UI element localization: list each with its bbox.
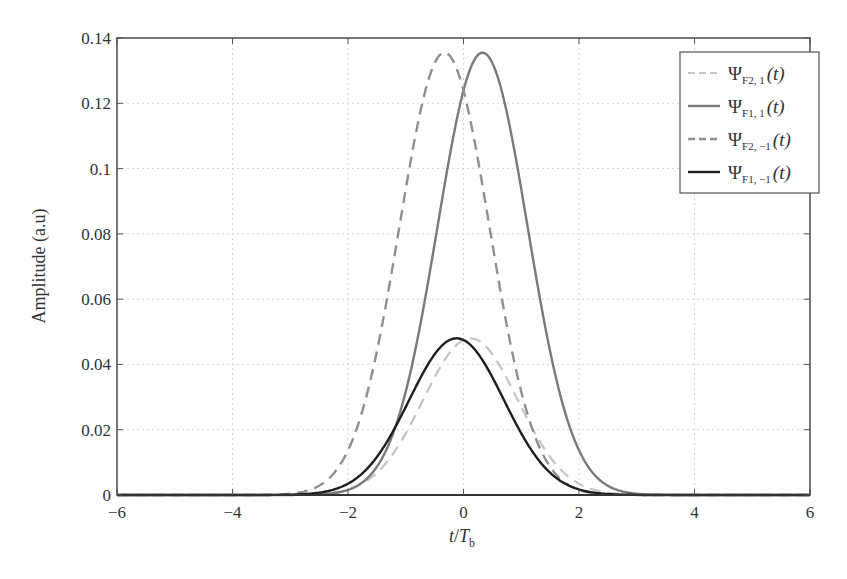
x-tick-label: 6 [806,503,815,522]
line-chart: 00.020.040.060.080.10.120.14 −6−4−20246 … [0,0,847,579]
series-line-4 [117,338,810,495]
y-tick-label: 0.14 [81,29,111,48]
x-tick-labels: −6−4−20246 [108,503,814,522]
x-tick-label: 4 [690,503,699,522]
y-tick-label: 0.02 [81,421,111,440]
y-tick-label: 0.08 [81,225,111,244]
y-axis-label: Amplitude (a.u) [29,209,50,324]
y-tick-label: 0.12 [81,94,111,113]
x-tick-label: 0 [459,503,468,522]
series-line-1 [117,338,810,495]
y-tick-label: 0.1 [90,160,111,179]
y-tick-labels: 00.020.040.060.080.10.120.14 [81,29,111,505]
x-tick-label: 2 [575,503,584,522]
x-axis-label: t/Tb [449,526,475,550]
y-tick-label: 0.04 [81,355,111,374]
y-tick-label: 0.06 [81,290,111,309]
x-tick-label: −4 [223,503,242,522]
legend: ΨF2, 1(t)ΨF1, 1(t)ΨF2, −1(t)ΨF1, −1(t) [680,52,819,193]
x-tick-label: −2 [339,503,357,522]
x-tick-label: −6 [108,503,126,522]
